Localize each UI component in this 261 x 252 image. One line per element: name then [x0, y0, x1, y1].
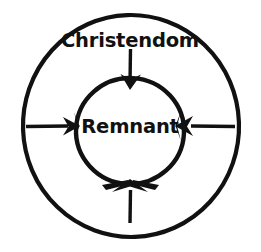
- arrow-bottom-shaft: [130, 190, 131, 223]
- concentric-circle-diagram: Christendom Remnant: [0, 0, 261, 252]
- diagram-canvas: Christendom Remnant: [0, 0, 261, 252]
- arrow-top: [121, 49, 142, 90]
- arrow-bottom: [102, 179, 159, 223]
- label-christendom: Christendom: [61, 29, 199, 52]
- arrow-left-shaft: [26, 126, 68, 127]
- label-remnant: Remnant: [81, 115, 178, 138]
- arrow-right-shaft: [191, 126, 235, 127]
- arrow-left: [26, 112, 80, 140]
- arrow-top-shaft: [130, 49, 131, 83]
